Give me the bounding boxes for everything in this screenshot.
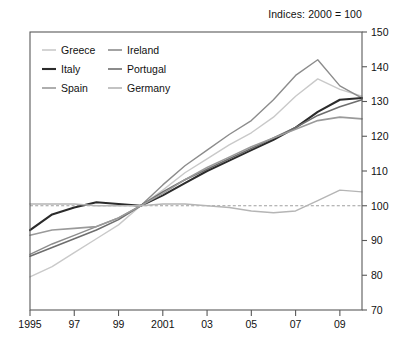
y-axis-tick-label: 110 xyxy=(371,165,388,177)
legend-label-portugal: Portugal xyxy=(127,63,166,75)
x-tick-label-layer: 19959799200103050709 xyxy=(18,318,346,330)
y-axis-tick-label: 80 xyxy=(371,269,383,281)
legend-label-ireland: Ireland xyxy=(127,44,159,56)
legend-label-italy: Italy xyxy=(61,63,81,75)
y-axis-tick-label: 90 xyxy=(371,234,383,246)
legend: GreeceIrelandItalyPortugalSpainGermany xyxy=(42,44,171,94)
y-axis-tick-label: 130 xyxy=(371,95,389,107)
x-axis-tick-label: 09 xyxy=(334,318,346,330)
legend-label-germany: Germany xyxy=(127,82,171,94)
y-axis-tick-label: 100 xyxy=(371,200,389,212)
chart-canvas: 708090100110120130140150 199597992001030… xyxy=(0,0,416,346)
y-axis-tick-label: 70 xyxy=(371,304,383,316)
series-line-germany xyxy=(30,190,362,213)
y-axis-tick-label: 140 xyxy=(371,61,389,73)
y-tick-label-layer: 708090100110120130140150 xyxy=(371,26,389,316)
x-axis-tick-label: 03 xyxy=(201,318,213,330)
x-axis-tick-label: 99 xyxy=(113,318,125,330)
legend-label-spain: Spain xyxy=(61,82,88,94)
y-axis-tick-label: 120 xyxy=(371,130,389,142)
legend-label-greece: Greece xyxy=(61,44,96,56)
x-axis-tick-label: 05 xyxy=(245,318,257,330)
y-axis-tick-label: 150 xyxy=(371,26,389,38)
x-axis-tick-label: 2001 xyxy=(151,318,175,330)
x-axis-tick-label: 07 xyxy=(290,318,302,330)
x-axis-tick-label: 1995 xyxy=(18,318,42,330)
x-axis-tick-label: 97 xyxy=(68,318,80,330)
line-chart: Indices: 2000 = 100 70809010011012013014… xyxy=(0,0,416,346)
